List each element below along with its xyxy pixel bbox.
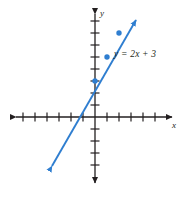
x-axis: [16, 113, 172, 122]
data-point: [92, 78, 97, 83]
plotted-line: [52, 20, 136, 166]
equation-label: y = 2x + 3: [114, 50, 156, 60]
graph-canvas: [0, 0, 185, 197]
data-point: [116, 30, 121, 35]
x-axis-label: x: [172, 121, 176, 130]
coordinate-plane-figure: y x y = 2x + 3: [0, 0, 185, 197]
data-point: [104, 54, 109, 59]
y-axis-label: y: [100, 9, 104, 18]
